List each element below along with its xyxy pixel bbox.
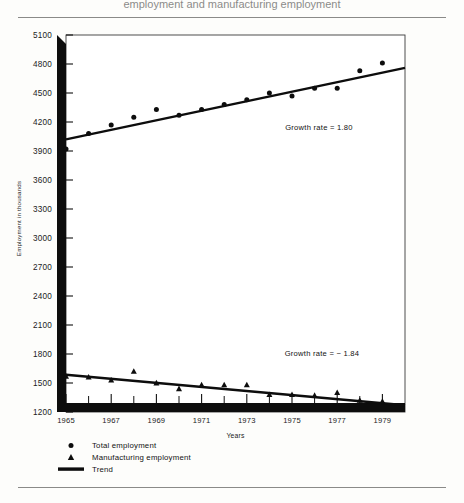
annotation-total-growth-rate: Growth rate = 1.80 xyxy=(285,123,353,132)
y-tick-label: 2100 xyxy=(33,321,52,330)
y-tick-label: 4800 xyxy=(33,60,52,69)
figure-page: employment and manufacturing employment … xyxy=(0,0,464,503)
y-tick-label: 3900 xyxy=(33,147,52,156)
data-point-circle xyxy=(312,86,317,91)
data-point-circle xyxy=(109,122,114,127)
y-tick-label: 5100 xyxy=(33,31,52,40)
x-tick-label: 1973 xyxy=(238,416,256,425)
data-point-circle xyxy=(199,107,204,112)
data-point-circle xyxy=(154,107,159,112)
x-axis-bar xyxy=(57,403,405,412)
y-tick-label: 3300 xyxy=(33,205,52,214)
x-tick-label: 1977 xyxy=(328,416,346,425)
data-point-circle xyxy=(357,68,362,73)
y-tick-label: 4500 xyxy=(33,89,52,98)
data-point-circle xyxy=(380,61,385,66)
data-point-circle xyxy=(267,91,272,96)
annotation-manufacturing-growth-rate: Growth rate = − 1.84 xyxy=(285,349,360,358)
x-axis-title: Years xyxy=(226,432,245,439)
data-point-circle xyxy=(290,93,295,98)
x-tick-label: 1967 xyxy=(102,416,120,425)
x-tick-label: 1969 xyxy=(148,416,166,425)
y-tick-label: 1200 xyxy=(33,408,52,417)
x-tick-label: 1975 xyxy=(283,416,301,425)
y-tick-label: 2700 xyxy=(33,263,52,272)
legend-label: Total employment xyxy=(92,441,157,450)
y-tick-label: 3000 xyxy=(33,234,52,243)
legend-circle-icon xyxy=(69,443,74,448)
data-point-circle xyxy=(131,115,136,120)
y-tick-label: 1800 xyxy=(33,350,52,359)
x-tick-label: 1965 xyxy=(57,416,75,425)
data-point-circle xyxy=(244,97,249,102)
y-tick-label: 2400 xyxy=(33,292,52,301)
y-tick-label: 4200 xyxy=(33,118,52,127)
data-point-circle xyxy=(222,102,227,107)
x-tick-label: 1971 xyxy=(193,416,211,425)
chart-container: Employment in thousands 1200150018002100… xyxy=(0,0,464,503)
legend-triangle-icon xyxy=(68,454,74,460)
data-point-circle xyxy=(64,147,69,152)
legend-label: Manufacturing employment xyxy=(92,453,191,462)
x-tick-label: 1979 xyxy=(374,416,392,425)
legend-label: Trend xyxy=(92,465,113,474)
y-axis-bar xyxy=(57,35,66,412)
employment-trend-chart: 1200150018002100240027003000330036003900… xyxy=(0,0,464,503)
y-tick-label: 3600 xyxy=(33,176,52,185)
y-tick-label: 1500 xyxy=(33,379,52,388)
data-point-circle xyxy=(86,131,91,136)
data-point-circle xyxy=(177,113,182,118)
legend-line-icon xyxy=(58,467,84,470)
data-point-circle xyxy=(335,86,340,91)
